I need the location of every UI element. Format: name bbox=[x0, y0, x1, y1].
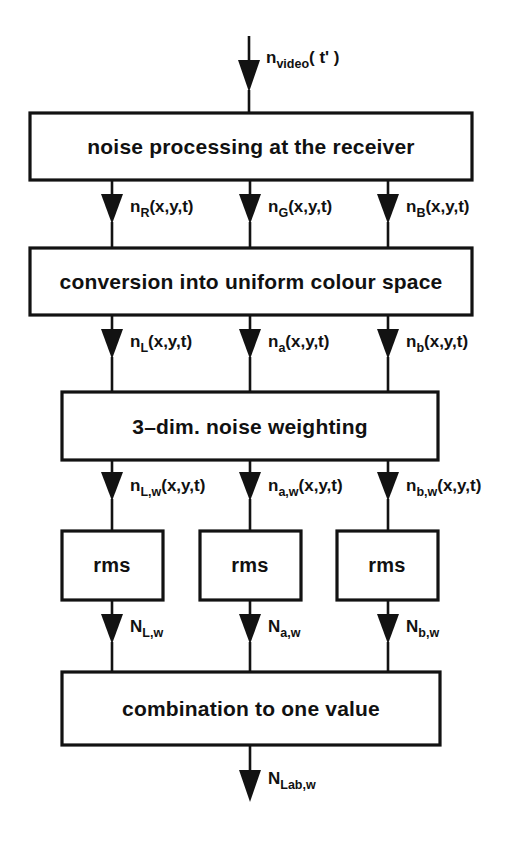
block-diagram: nvideo( t' ) noise processing at the rec… bbox=[0, 0, 520, 844]
block-rms-middle-label: rms bbox=[231, 554, 268, 576]
signal-label-n-lw: nL,w(x,y,t) bbox=[130, 476, 205, 499]
signal-label-output: NLab,w bbox=[268, 769, 316, 792]
signal-label-n-aw: na,w(x,y,t) bbox=[268, 476, 343, 499]
block-noise-weighting-label: 3–dim. noise weighting bbox=[132, 415, 367, 438]
signal-label-n-l: nL(x,y,t) bbox=[130, 332, 192, 355]
signal-label-N-bw: Nb,w bbox=[406, 617, 439, 640]
input-arrow bbox=[238, 36, 260, 113]
flowchart-canvas: nvideo( t' ) noise processing at the rec… bbox=[0, 0, 520, 844]
signal-label-n-b-lab: nb(x,y,t) bbox=[406, 332, 468, 355]
signal-label-n-b: nB(x,y,t) bbox=[406, 197, 470, 220]
block-rms-left-label: rms bbox=[93, 554, 130, 576]
output-arrow bbox=[239, 745, 261, 802]
block-colour-conversion-label: conversion into uniform colour space bbox=[60, 270, 443, 293]
signal-label-n-a: na(x,y,t) bbox=[268, 332, 329, 355]
signal-label-N-lw: NL,w bbox=[130, 617, 163, 640]
signal-label-N-aw: Na,w bbox=[268, 617, 301, 640]
signal-label-n-g: nG(x,y,t) bbox=[268, 197, 332, 220]
block-noise-processing-label: noise processing at the receiver bbox=[87, 135, 414, 158]
signal-label-n-r: nR(x,y,t) bbox=[130, 197, 194, 220]
block-rms-right-label: rms bbox=[368, 554, 405, 576]
signal-label-n-bw: nb,w(x,y,t) bbox=[406, 476, 481, 499]
block-combination-label: combination to one value bbox=[122, 697, 380, 720]
signal-label-input: nvideo( t' ) bbox=[266, 48, 340, 71]
